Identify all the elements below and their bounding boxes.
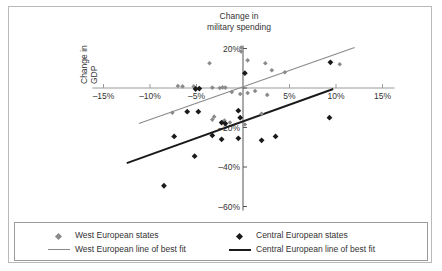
y-axis-tick-label: –40% — [218, 162, 240, 172]
data-point-west-european — [337, 62, 342, 67]
data-point-west-european — [223, 85, 228, 90]
data-point-central-european — [237, 115, 243, 121]
x-axis-tick-label: 5% — [283, 91, 296, 101]
svg-text:GDP: GDP — [89, 65, 99, 84]
data-point-central-european — [235, 135, 241, 141]
data-point-west-european — [253, 89, 258, 94]
legend-marker-west-european-states — [55, 233, 62, 240]
x-axis-tick-label: –15% — [93, 91, 115, 101]
svg-text:Change in: Change in — [79, 45, 89, 84]
plot-area: Change inmilitary spending–15%–10%–5%5%1… — [9, 7, 431, 219]
data-point-central-european — [328, 59, 334, 65]
legend-marker-central-european-states — [236, 233, 243, 240]
data-point-west-european — [283, 70, 288, 75]
chart-screenshot: Change inmilitary spending–15%–10%–5%5%1… — [0, 0, 442, 271]
data-point-central-european — [195, 109, 201, 115]
data-point-west-european — [245, 91, 250, 96]
data-point-west-european — [270, 68, 275, 73]
scatter-chart: Change inmilitary spending–15%–10%–5%5%1… — [9, 7, 431, 219]
y-axis-tick-label: –60% — [218, 202, 240, 212]
chart-title-line1: Change in — [220, 11, 259, 21]
x-axis-tick-label: 10% — [327, 91, 344, 101]
data-point-central-european — [171, 133, 177, 139]
data-point-west-european — [263, 61, 268, 66]
x-axis-tick-label: –10% — [139, 91, 161, 101]
data-point-west-european — [238, 92, 243, 97]
data-point-central-european — [219, 136, 225, 142]
legend-line-west-european-best-fit — [48, 249, 70, 250]
x-axis-tick-label: –5% — [188, 91, 205, 101]
data-point-central-european — [184, 109, 190, 115]
data-point-central-european — [273, 133, 279, 139]
legend-label-central-european-states: Central European states — [256, 230, 348, 240]
x-axis-title: Change inGDP — [79, 45, 99, 84]
data-point-central-european — [235, 108, 241, 114]
y-axis-tick-label: 20% — [223, 44, 240, 54]
legend-label-central-european-best-fit: Central European line of best fit — [256, 244, 375, 254]
x-axis-tick-label: 15% — [374, 91, 391, 101]
data-point-west-european — [265, 93, 270, 98]
data-point-central-european — [161, 183, 167, 189]
data-point-west-european — [207, 61, 212, 66]
data-point-central-european — [327, 115, 333, 121]
legend-label-west-european-states: West European states — [75, 230, 158, 240]
data-point-west-european — [245, 58, 250, 63]
legend-line-central-european-best-fit — [229, 249, 251, 251]
chart-title-line2: military spending — [207, 22, 271, 32]
legend-label-west-european-best-fit: West European line of best fit — [75, 244, 186, 254]
data-point-west-european — [210, 85, 215, 90]
data-point-central-european — [259, 137, 265, 143]
chart-legend: West European states Central European st… — [14, 222, 428, 261]
data-point-central-european — [192, 153, 198, 159]
